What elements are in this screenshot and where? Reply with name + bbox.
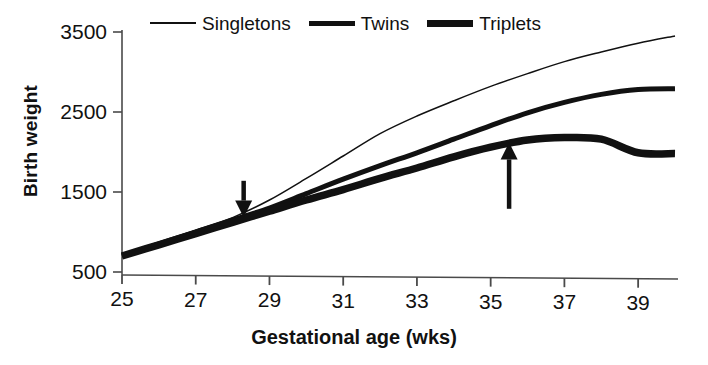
y-axis-tick-label: 1500: [31, 181, 107, 202]
legend-entry-singletons: Singletons: [150, 14, 291, 33]
x-axis-tick-label: 35: [469, 291, 513, 312]
series-line-triplets: [122, 137, 675, 256]
chart-legend: SingletonsTwinsTriplets: [150, 8, 570, 38]
legend-label: Singletons: [202, 14, 291, 33]
y-axis-ticks: [113, 32, 122, 272]
x-axis-tick-label: 31: [321, 290, 365, 311]
x-axis-tick-label: 39: [616, 292, 660, 313]
x-axis-title: Gestational age (wks): [0, 326, 708, 349]
legend-line-swatch-icon: [150, 22, 196, 24]
legend-entry-twins: Twins: [309, 14, 410, 33]
axis-lines: [122, 30, 678, 279]
x-axis-line: [122, 275, 678, 279]
legend-entry-triplets: Triplets: [427, 14, 541, 33]
legend-label: Triplets: [479, 14, 541, 33]
data-series-lines: [122, 36, 675, 256]
x-axis-tick-label: 25: [100, 288, 144, 309]
series-line-singletons: [122, 36, 675, 256]
x-axis-tick-label: 37: [542, 291, 586, 312]
y-axis-title: Birth weight: [20, 66, 42, 216]
legend-line-swatch-icon: [427, 20, 473, 27]
x-axis-tick-label: 27: [174, 289, 218, 310]
legend-label: Twins: [361, 14, 410, 33]
y-axis-tick-label: 3500: [31, 21, 107, 42]
birth-weight-chart-figure: SingletonsTwinsTriplets 350025001500500 …: [0, 0, 708, 365]
y-axis-tick-label: 2500: [31, 101, 107, 122]
x-axis-tick-label: 29: [247, 289, 291, 310]
y-axis-tick-label: 500: [31, 261, 107, 282]
legend-line-swatch-icon: [309, 21, 355, 26]
x-axis-tick-label: 33: [395, 290, 439, 311]
